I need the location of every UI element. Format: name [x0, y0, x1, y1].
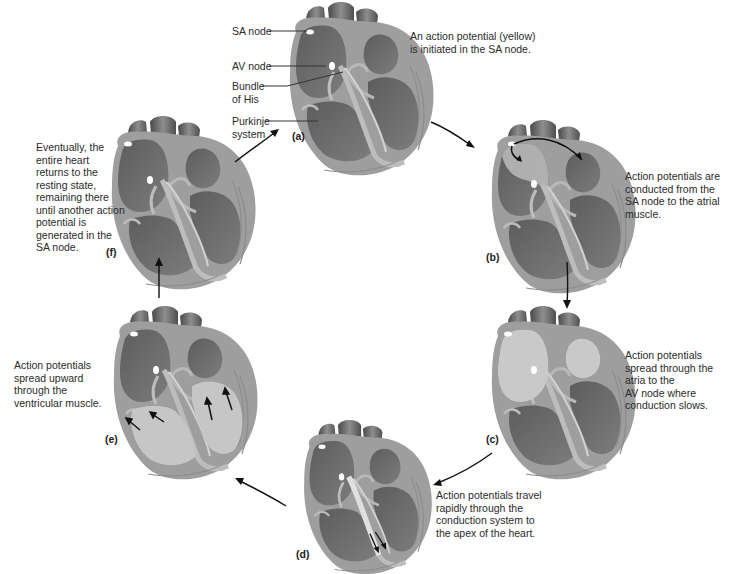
- panel-label-c: (c): [486, 433, 499, 445]
- cycle-arrow-d-to-e: [240, 481, 286, 506]
- panel-label-b: (b): [486, 251, 499, 263]
- caption-f: Eventually, the entire heart returns to …: [36, 141, 125, 254]
- callout-av-node: AV node: [232, 60, 272, 73]
- leader-bundle-of-his: [262, 72, 343, 86]
- panel-label-e: (e): [105, 433, 118, 445]
- cycle-arrow-b-to-c: [567, 262, 568, 304]
- cycle-arrow-c-to-d: [438, 453, 492, 483]
- callout-purkinje-system: Purkinje system: [232, 115, 270, 140]
- callout-sa-node: SA node: [232, 25, 272, 38]
- caption-e: Action potentials spread upward through …: [14, 359, 102, 409]
- caption-d: Action potentials travel rapidly through…: [436, 489, 542, 539]
- panel-label-a: (a): [292, 130, 305, 142]
- caption-a: An action potential (yellow) is initiate…: [410, 30, 535, 55]
- caption-c: Action potentials spread through the atr…: [625, 349, 713, 412]
- cycle-arrow-a-to-b: [431, 122, 472, 146]
- panel-label-d: (d): [296, 548, 309, 560]
- caption-b: Action potentials are conducted from the…: [625, 170, 720, 220]
- arrows-overlay: [0, 0, 729, 574]
- callout-bundle-of-his: Bundle of His: [232, 80, 265, 105]
